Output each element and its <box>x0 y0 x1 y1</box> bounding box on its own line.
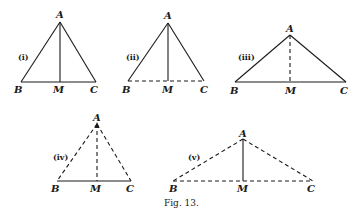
figure-caption: Fig. 13. <box>164 198 199 208</box>
vertex-c-label: C <box>340 85 348 96</box>
figure-13: A B M C (i) A B M C (ii) A B M C (iii) A <box>0 0 362 215</box>
vertex-b-label: B <box>229 85 238 96</box>
vertex-c-label: C <box>90 84 98 95</box>
vertex-m-label: M <box>89 183 102 194</box>
vertex-a-label: A <box>163 10 172 21</box>
triangle-ii: A B M C (ii) <box>121 10 208 95</box>
vertex-a-label: A <box>238 128 247 139</box>
vertex-b-label: B <box>13 84 22 95</box>
vertex-m-label: M <box>52 84 65 95</box>
triangle-v: A B M C (v) <box>168 128 315 194</box>
side-ac <box>290 35 346 82</box>
vertex-c-label: C <box>200 84 208 95</box>
vertex-m-label: M <box>236 183 249 194</box>
side-ab <box>173 139 243 181</box>
vertex-b-label: B <box>50 183 59 194</box>
side-ac <box>60 22 96 82</box>
vertex-m-label: M <box>161 84 174 95</box>
triangle-iii: A B M C (iii) <box>229 23 348 96</box>
numeral-label: (ii) <box>126 52 140 62</box>
vertex-b-label: B <box>168 183 177 194</box>
triangle-iv: A B M C (iv) <box>50 112 134 194</box>
numeral-label: (v) <box>188 152 200 162</box>
numeral-label: (iii) <box>238 52 255 62</box>
vertex-a-label: A <box>55 9 64 20</box>
triangle-i: A B M C (i) <box>13 9 98 95</box>
vertex-c-label: C <box>126 183 134 194</box>
numeral-label: (iv) <box>53 152 68 162</box>
vertex-a-label: A <box>285 23 294 34</box>
numeral-label: (i) <box>18 52 29 62</box>
side-ac <box>243 139 313 181</box>
vertex-c-label: C <box>307 183 315 194</box>
vertex-m-label: M <box>284 85 297 96</box>
vertex-b-label: B <box>121 84 130 95</box>
side-ac <box>97 124 131 181</box>
side-ac <box>168 23 204 81</box>
vertex-a-label: A <box>92 112 101 123</box>
